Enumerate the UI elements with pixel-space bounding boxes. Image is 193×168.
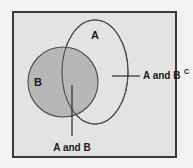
- set-a-label: A: [91, 29, 99, 41]
- callout-a-not-b-label: A and B: [143, 70, 180, 81]
- set-b-label: B: [34, 76, 42, 88]
- callout-a-not-b-superscript: C: [184, 68, 189, 75]
- callout-intersection-label: A and B: [53, 142, 90, 153]
- venn-diagram-figure: A B A and B C A and B: [0, 0, 193, 168]
- venn-diagram-canvas: A B A and B C A and B: [0, 0, 193, 168]
